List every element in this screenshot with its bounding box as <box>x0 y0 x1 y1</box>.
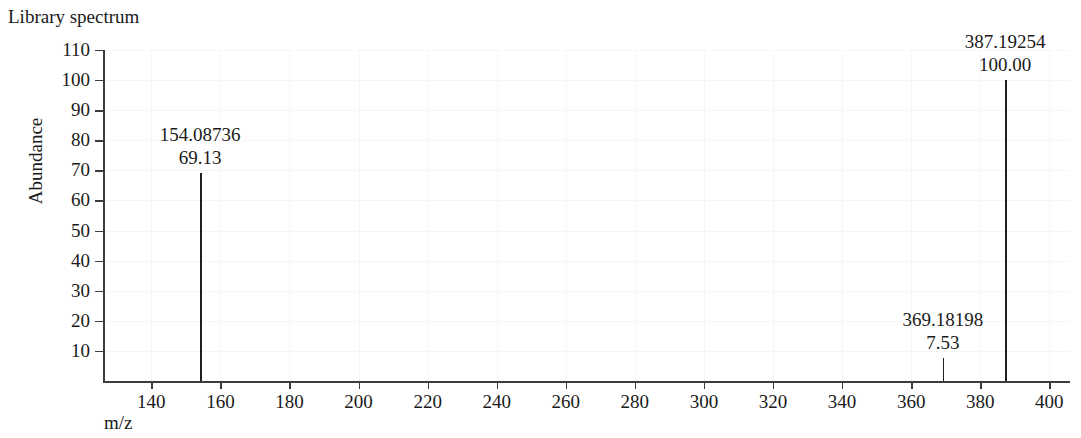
page-title: Library spectrum <box>8 6 139 28</box>
x-tick-label: 160 <box>190 391 250 412</box>
y-tick-mark <box>95 351 103 352</box>
x-tick-mark <box>704 382 705 389</box>
peak-annotation: 369.181987.53 <box>843 308 1043 354</box>
y-tick-label: 40 <box>50 251 90 270</box>
y-tick-label: 100 <box>50 70 90 89</box>
x-tick-mark <box>289 382 290 389</box>
x-tick-mark <box>980 382 981 389</box>
gridline-vertical <box>635 50 636 382</box>
peak-line <box>200 173 202 381</box>
gridline-vertical <box>704 50 705 382</box>
peak-abundance-label: 100.00 <box>905 53 1081 76</box>
y-tick-mark <box>95 110 103 111</box>
x-tick-label: 140 <box>121 391 181 412</box>
mass-spectrum-chart: Library spectrum Abundance 1020304050607… <box>0 0 1081 438</box>
y-axis-line <box>103 50 105 382</box>
y-tick-label: 70 <box>50 160 90 179</box>
gridline-horizontal <box>103 80 1070 81</box>
x-tick-mark <box>842 382 843 389</box>
x-tick-label: 180 <box>259 391 319 412</box>
y-tick-mark <box>95 231 103 232</box>
y-tick-mark <box>95 80 103 81</box>
x-tick-mark <box>635 382 636 389</box>
peak-line <box>1005 80 1007 381</box>
x-tick-label: 340 <box>812 391 872 412</box>
gridline-horizontal <box>103 261 1070 262</box>
gridline-vertical <box>220 50 221 382</box>
peak-mz-label: 369.18198 <box>843 308 1043 331</box>
gridline-horizontal <box>103 200 1070 201</box>
gridline-vertical <box>289 50 290 382</box>
y-tick-label: 60 <box>50 190 90 209</box>
y-tick-mark <box>95 50 103 51</box>
gridline-horizontal <box>103 231 1070 232</box>
x-tick-label: 320 <box>743 391 803 412</box>
x-tick-label: 200 <box>329 391 389 412</box>
peak-annotation: 387.19254100.00 <box>905 30 1081 76</box>
peak-mz-label: 154.08736 <box>100 123 300 146</box>
y-tick-label: 10 <box>50 341 90 360</box>
y-tick-mark <box>95 170 103 171</box>
gridline-horizontal <box>103 110 1070 111</box>
y-tick-mark <box>95 261 103 262</box>
x-tick-label: 220 <box>398 391 458 412</box>
gridline-horizontal <box>103 170 1070 171</box>
gridline-vertical <box>428 50 429 382</box>
x-tick-mark <box>428 382 429 389</box>
gridline-vertical <box>359 50 360 382</box>
x-axis-label: m/z <box>104 412 133 433</box>
gridline-vertical <box>151 50 152 382</box>
y-tick-label: 80 <box>50 130 90 149</box>
gridline-vertical <box>773 50 774 382</box>
x-tick-label: 360 <box>881 391 941 412</box>
x-tick-label: 380 <box>950 391 1010 412</box>
gridline-vertical <box>497 50 498 382</box>
x-tick-label: 260 <box>536 391 596 412</box>
x-tick-mark <box>1049 382 1050 389</box>
gridline-vertical <box>566 50 567 382</box>
y-tick-label: 110 <box>50 40 90 59</box>
peak-mz-label: 387.19254 <box>905 30 1081 53</box>
y-tick-mark <box>95 321 103 322</box>
x-tick-mark <box>911 382 912 389</box>
y-tick-label: 30 <box>50 281 90 300</box>
gridline-vertical <box>1049 50 1050 382</box>
y-tick-label: 50 <box>50 221 90 240</box>
x-tick-mark <box>773 382 774 389</box>
peak-abundance-label: 69.13 <box>100 146 300 169</box>
y-axis-label: Abundance <box>25 101 47 221</box>
x-tick-label: 400 <box>1019 391 1079 412</box>
x-tick-mark <box>497 382 498 389</box>
x-tick-mark <box>151 382 152 389</box>
x-tick-mark <box>220 382 221 389</box>
x-tick-label: 280 <box>605 391 665 412</box>
peak-line <box>943 358 945 381</box>
x-tick-label: 300 <box>674 391 734 412</box>
x-axis-line <box>103 381 1070 383</box>
y-tick-mark <box>95 200 103 201</box>
peak-abundance-label: 7.53 <box>843 331 1043 354</box>
y-tick-label: 20 <box>50 311 90 330</box>
peak-annotation: 154.0873669.13 <box>100 123 300 169</box>
x-tick-mark <box>359 382 360 389</box>
y-tick-label: 90 <box>50 100 90 119</box>
x-tick-mark <box>566 382 567 389</box>
gridline-horizontal <box>103 291 1070 292</box>
x-tick-label: 240 <box>467 391 527 412</box>
y-tick-mark <box>95 291 103 292</box>
